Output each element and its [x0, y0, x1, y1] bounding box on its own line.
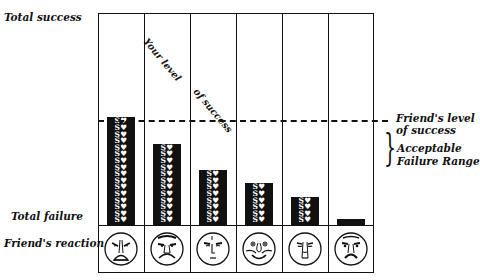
- angry-face-icon: [149, 231, 185, 267]
- friends-level-line: [98, 120, 388, 122]
- happy-face-icon: [241, 231, 277, 267]
- total-failure-label: Total failure: [11, 210, 83, 222]
- bar-6: [337, 219, 365, 225]
- bar-2: S♥S♥S♥S♥S♥S♥S♥S♥S♥S♥S♥S♥: [153, 144, 181, 225]
- bar-5: S♥S♥S♥S♥: [291, 197, 319, 225]
- bar-4: S♥S♥S♥S♥S♥S♥: [245, 183, 273, 225]
- acceptable-label-1: Acceptable: [397, 142, 462, 154]
- dollar-heart-icon: S♥: [114, 217, 127, 224]
- worried-face-icon: [287, 231, 323, 267]
- furious-face-icon: [103, 231, 139, 267]
- acceptable-label-2: Failure Range: [397, 155, 480, 167]
- friends-reaction-label: Friend's reaction: [4, 237, 104, 249]
- column-divider: [328, 13, 329, 273]
- friends-level-label-2: of success: [396, 124, 456, 136]
- bar-3: S♥S♥S♥S♥S♥S♥S♥S♥: [199, 170, 227, 225]
- column-divider: [282, 13, 283, 273]
- total-success-label: Total success: [4, 11, 82, 23]
- column-divider: [236, 13, 237, 273]
- column-divider: [190, 13, 191, 273]
- dollar-heart-icon: S♥: [298, 217, 311, 224]
- stern-face-icon: [333, 231, 369, 267]
- brace-icon: }: [384, 128, 396, 166]
- column-divider: [144, 13, 145, 273]
- bar-1: S♥S♥S♥S♥S♥S♥S♥S♥S♥S♥S♥S♥S♥S♥S♥S♥: [107, 117, 135, 225]
- faces-row-divider: [98, 225, 374, 226]
- friends-level-label-1: Friend's level: [396, 112, 475, 124]
- neutral-face-icon: [195, 231, 231, 267]
- dollar-heart-icon: S♥: [206, 217, 219, 224]
- dollar-heart-icon: S♥: [160, 217, 173, 224]
- dollar-heart-icon: S♥: [252, 217, 265, 224]
